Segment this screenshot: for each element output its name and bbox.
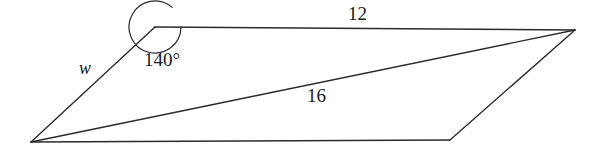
bottom-edge-line <box>31 140 450 142</box>
angle-measure-label: 140° <box>144 50 180 69</box>
left-side-variable-label: w <box>79 59 91 77</box>
geometry-figure: 12 140° w 16 <box>0 0 601 155</box>
right-edge-line <box>450 30 575 140</box>
diagonal-length-label: 16 <box>307 86 326 105</box>
top-edge-length-label: 12 <box>348 4 367 23</box>
left-edge-line <box>31 27 155 142</box>
diagonal-line <box>31 30 575 142</box>
top-edge-line <box>155 27 575 30</box>
